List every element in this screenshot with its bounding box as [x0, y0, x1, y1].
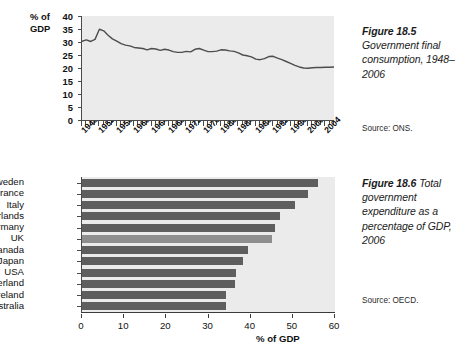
- bar-japan: [82, 257, 243, 265]
- figure-18-5-source: Source: ONS.: [362, 124, 413, 133]
- bar-x-tick-label: 50: [277, 320, 307, 331]
- bar-row: [82, 246, 248, 254]
- bar-ireland: [82, 291, 226, 299]
- bar-usa: [82, 269, 236, 277]
- line-y-tick-label: 25: [53, 51, 73, 60]
- bar-row: [82, 179, 318, 187]
- figure-18-5-caption: Figure 18.5 Government final consumption…: [362, 24, 466, 81]
- bar-category-label: France: [0, 188, 24, 198]
- bar-category-label: Australia: [0, 301, 24, 311]
- line-y-tick-label: 40: [53, 12, 73, 21]
- bar-x-tick-label: 40: [235, 320, 265, 331]
- line-y-tick-label: 0: [53, 116, 73, 125]
- line-series-path: [82, 16, 334, 120]
- line-y-tick-label: 35: [53, 25, 73, 34]
- bar-switzerland: [82, 280, 235, 288]
- bar-category-label: USA: [0, 267, 24, 277]
- bar-category-label: Italy: [0, 200, 24, 210]
- bar-row: [82, 269, 236, 277]
- bar-category-label: UK: [0, 233, 24, 243]
- bar-row: [82, 212, 280, 220]
- bar-x-tick-mark: [250, 314, 251, 318]
- bar-france: [82, 190, 308, 198]
- line-y-tick-label: 5: [53, 103, 73, 112]
- bar-x-tick-mark: [81, 314, 82, 318]
- bar-x-tick-mark: [292, 314, 293, 318]
- bar-x-tick-mark: [208, 314, 209, 318]
- bar-x-tick-label: 30: [193, 320, 223, 331]
- bar-row: [82, 190, 308, 198]
- figure-18-6-chart: SwedenFranceItalyNetherlandsGermanyUKCan…: [0, 170, 360, 354]
- bar-row: [82, 291, 226, 299]
- bar-x-tick-label: 0: [66, 320, 96, 331]
- bar-row: [82, 280, 235, 288]
- figure-18-6-caption: Figure 18.6 Total government expenditure…: [362, 176, 468, 247]
- bar-category-label: Germany: [0, 222, 24, 232]
- bar-canada: [82, 246, 248, 254]
- bar-row: [82, 257, 243, 265]
- bar-category-label: Ireland: [0, 290, 24, 300]
- figure-18-5-caption-text: Government final consumption, 1948–2006: [362, 39, 455, 79]
- figure-18-5-chart: % of GDP 0510152025303540 19481952195619…: [0, 0, 360, 170]
- bar-x-tick-mark: [334, 314, 335, 318]
- bar-x-tick-label: 60: [319, 320, 349, 331]
- bar-category-label: Canada: [0, 245, 24, 255]
- bar-row: [82, 224, 275, 232]
- bar-sweden: [82, 179, 318, 187]
- bar-category-label: Netherlands: [0, 211, 24, 221]
- bar-row: [82, 235, 272, 243]
- figure-18-6-caption-label: Figure 18.6: [362, 177, 416, 189]
- bar-category-label: Japan: [0, 256, 24, 266]
- bar-uk: [82, 235, 272, 243]
- figure-18-5-caption-label: Figure 18.5: [362, 25, 416, 37]
- bar-germany: [82, 224, 275, 232]
- line-y-tick-label: 10: [53, 90, 73, 99]
- line-chart-plot-area: [81, 16, 334, 121]
- bar-row: [82, 201, 295, 209]
- bar-chart-plot-area: [81, 177, 335, 313]
- bar-x-tick-label: 10: [108, 320, 138, 331]
- figure-18-6-source: Source: OECD.: [362, 296, 418, 305]
- bar-row: [82, 302, 226, 310]
- line-y-tick-label: 30: [53, 38, 73, 47]
- bar-category-label: Switzerland: [0, 278, 24, 288]
- bar-x-tick-mark: [123, 314, 124, 318]
- line-y-tick-label: 15: [53, 77, 73, 86]
- bar-italy: [82, 201, 295, 209]
- bar-category-label: Sweden: [0, 177, 24, 187]
- line-y-tick-label: 20: [53, 64, 73, 73]
- bar-x-tick-mark: [165, 314, 166, 318]
- bar-x-tick-label: 20: [150, 320, 180, 331]
- bar-australia: [82, 302, 226, 310]
- bar-netherlands: [82, 212, 280, 220]
- bar-chart-x-axis-title: % of GDP: [256, 333, 300, 344]
